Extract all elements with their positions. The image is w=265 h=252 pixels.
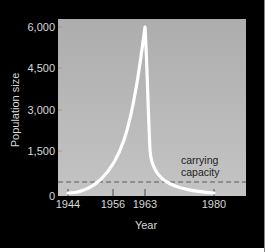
x-tick-label: 1980 [202, 198, 226, 210]
y-tick-label: 0 [49, 190, 55, 202]
x-tick-label: 1963 [133, 198, 157, 210]
carrying-capacity-label: carrying [181, 154, 219, 166]
carrying-capacity-label: capacity [181, 166, 220, 178]
population-chart: 6,000 4,500 3,000 1,500 0 1944 1956 1963… [0, 0, 265, 252]
right-border [264, 0, 265, 252]
y-tick-label: 3,000 [27, 104, 55, 116]
y-tick-label: 1,500 [27, 145, 55, 157]
x-tick-label: 1944 [56, 198, 80, 210]
y-tick-label: 4,500 [27, 62, 55, 74]
x-axis-title: Year [135, 219, 158, 231]
y-axis-title: Population size [9, 73, 21, 148]
x-tick-label: 1956 [101, 198, 125, 210]
y-tick-label: 6,000 [27, 21, 55, 33]
bottom-border [0, 248, 265, 252]
